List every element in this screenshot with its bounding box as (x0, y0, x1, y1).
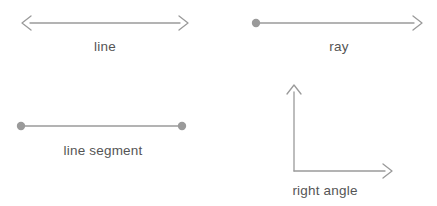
figure-line-segment (17, 122, 186, 130)
line-segment-endpoint-dot-left (17, 122, 25, 130)
geometry-figures-svg (0, 0, 437, 206)
figure-label-line: line (94, 40, 116, 54)
figure-label-right-angle: right angle (292, 184, 357, 198)
diagram-canvas: line ray line segment right angle (0, 0, 437, 206)
line-segment-endpoint-dot-right (178, 122, 186, 130)
figure-line (22, 16, 188, 30)
ray-endpoint-dot (252, 19, 260, 27)
figure-label-ray: ray (329, 40, 348, 54)
figure-right-angle (287, 85, 392, 178)
figure-label-line-segment: line segment (64, 144, 143, 158)
figure-ray (252, 16, 422, 30)
